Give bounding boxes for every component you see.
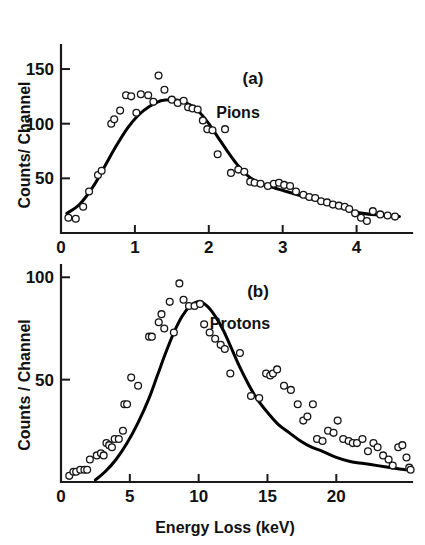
data-point: [237, 350, 244, 357]
panel-b-protons: 0510152050100Counts / Channel(b)ProtonsE…: [0, 255, 425, 545]
data-point: [155, 72, 162, 79]
data-point: [392, 213, 399, 220]
data-point: [241, 168, 248, 175]
data-point: [293, 188, 300, 195]
axis-lines: [61, 45, 412, 233]
data-point: [161, 325, 168, 332]
data-point: [214, 151, 221, 158]
data-point: [407, 466, 414, 473]
panel-a-plot: 0123450100150Counts/ Channel(a)Pions: [0, 0, 425, 272]
data-point: [330, 429, 337, 436]
data-point: [287, 183, 294, 190]
x-tick-label: 0: [56, 487, 65, 506]
data-point: [120, 427, 127, 434]
data-point: [128, 374, 135, 381]
data-point: [87, 456, 94, 463]
panel-a-pions: 0123450100150Counts/ Channel(a)Pions: [0, 0, 425, 272]
x-tick-label: 15: [258, 487, 277, 506]
data-point: [319, 438, 326, 445]
data-point: [128, 93, 135, 100]
data-point: [117, 107, 124, 114]
data-point: [227, 370, 234, 377]
panel-tag: (b): [247, 282, 269, 301]
x-tick-label: 5: [125, 487, 134, 506]
data-point: [209, 127, 216, 134]
data-point: [287, 386, 294, 393]
data-point: [199, 117, 206, 124]
figure-container: 0123450100150Counts/ Channel(a)Pions 051…: [0, 0, 425, 545]
data-point: [384, 212, 391, 219]
data-point: [364, 218, 371, 225]
data-point: [65, 214, 72, 221]
data-point: [309, 401, 316, 408]
series-label: Pions: [216, 104, 260, 121]
data-point: [389, 462, 396, 469]
data-point: [197, 301, 204, 308]
data-point: [334, 417, 341, 424]
data-point: [248, 393, 255, 400]
data-point: [133, 109, 140, 116]
y-tick-label: 50: [35, 371, 54, 390]
data-point: [346, 206, 353, 213]
data-point: [274, 366, 281, 373]
y-axis-title: Counts/ Channel: [16, 81, 33, 208]
data-point: [212, 335, 219, 342]
data-point: [115, 436, 122, 443]
x-axis-title: Energy Loss (keV): [155, 519, 295, 536]
data-point: [176, 280, 183, 287]
data-point: [170, 329, 177, 336]
x-tick-label: 20: [327, 487, 346, 506]
data-point: [399, 442, 406, 449]
data-point: [124, 401, 131, 408]
data-point: [86, 188, 93, 195]
data-point: [180, 296, 187, 303]
data-point: [109, 444, 116, 451]
data-point: [100, 452, 107, 459]
data-point: [135, 382, 142, 389]
series-label: Protons: [210, 315, 271, 332]
data-point: [374, 444, 381, 451]
y-axis-title: Counts / Channel: [16, 319, 33, 451]
data-point: [201, 321, 208, 328]
y-tick-label: 50: [35, 169, 54, 188]
data-point: [294, 401, 301, 408]
y-tick-label: 100: [26, 268, 54, 287]
data-point: [166, 298, 173, 305]
data-point: [72, 215, 79, 222]
data-point: [256, 395, 263, 402]
panel-tag: (a): [243, 69, 264, 88]
data-point: [228, 169, 235, 176]
data-point: [137, 91, 144, 98]
data-point: [377, 211, 384, 218]
data-point: [180, 97, 187, 104]
data-point: [98, 167, 105, 174]
data-point: [385, 456, 392, 463]
data-point: [369, 208, 376, 215]
data-point: [148, 333, 155, 340]
data-point: [194, 106, 201, 113]
data-point: [111, 116, 118, 123]
data-point: [304, 413, 311, 420]
data-point: [222, 126, 229, 133]
data-point: [161, 86, 168, 93]
x-tick-label: 10: [189, 487, 208, 506]
data-point: [145, 92, 152, 99]
y-tick-label: 150: [26, 60, 54, 79]
data-point: [281, 382, 288, 389]
data-point: [84, 466, 91, 473]
data-point: [365, 448, 372, 455]
data-point: [150, 98, 157, 105]
data-point: [403, 454, 410, 461]
data-point: [155, 319, 162, 326]
data-point: [352, 210, 359, 217]
data-point: [221, 346, 228, 353]
data-point: [257, 180, 264, 187]
data-point: [80, 203, 87, 210]
panel-b-plot: 0510152050100Counts / Channel(b)ProtonsE…: [0, 255, 425, 545]
data-point: [359, 436, 366, 443]
data-point: [158, 311, 165, 318]
